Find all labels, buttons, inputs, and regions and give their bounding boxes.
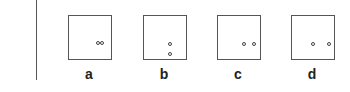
square-frame [143,15,187,60]
panel-label-a: a [67,66,111,82]
square-frame [291,15,335,60]
panel-a [68,15,112,60]
panel-label-b: b [142,66,186,82]
square-frame [217,15,261,60]
panel-b [143,15,187,60]
small-circle-icon [242,42,246,46]
panel-label-c: c [216,66,260,82]
panel-label-d: d [290,66,334,82]
small-circle-icon [168,52,172,56]
square-frame [68,15,112,60]
small-circle-icon [252,42,256,46]
panel-d [291,15,335,60]
small-circle-icon [168,42,172,46]
small-circle-icon [327,42,331,46]
panel-c [217,15,261,60]
small-circle-icon [100,41,104,45]
small-circle-icon [311,42,315,46]
vertical-divider-line [36,0,37,80]
